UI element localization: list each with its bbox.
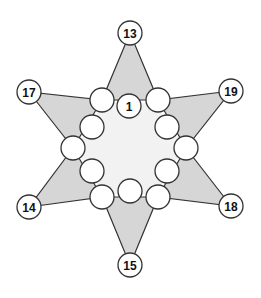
number-circle <box>80 115 104 139</box>
inner-circle-i6 <box>155 159 179 183</box>
inner-circle-i12 <box>80 115 104 139</box>
number-circle <box>146 88 170 112</box>
inner-circle-i9 <box>90 185 114 209</box>
number-circle <box>155 159 179 183</box>
outer-circle-upper-left: 17 <box>17 80 41 104</box>
inner-circle-i2: 1 <box>117 94 141 118</box>
outer-circle-lower-left: 14 <box>17 195 41 219</box>
inner-circle-i1 <box>90 88 114 112</box>
number-circle <box>118 179 142 203</box>
inner-circle-i4 <box>155 115 179 139</box>
circle-number-label: 15 <box>123 259 137 273</box>
circle-number-label: 17 <box>22 86 36 100</box>
circle-number-label: 14 <box>22 201 36 215</box>
circle-number-label: 19 <box>224 85 238 99</box>
inner-circle-i5 <box>174 136 198 160</box>
number-circle <box>90 185 114 209</box>
outer-circle-lower-right: 18 <box>219 194 243 218</box>
inner-circle-i10 <box>80 159 104 183</box>
inner-circle-i7 <box>146 185 170 209</box>
number-circle <box>174 136 198 160</box>
inner-circle-i8 <box>118 179 142 203</box>
number-circle <box>146 185 170 209</box>
outer-circle-bottom: 15 <box>118 253 142 277</box>
outer-circle-top: 13 <box>118 21 142 45</box>
number-circle <box>61 136 85 160</box>
circle-number-label: 18 <box>224 200 238 214</box>
circle-number-label: 1 <box>126 100 133 114</box>
inner-circle-i3 <box>146 88 170 112</box>
circle-number-label: 13 <box>123 27 137 41</box>
outer-circle-upper-right: 19 <box>219 79 243 103</box>
star-diagram-svg: 1131719141815 <box>0 0 261 298</box>
inner-circle-i11 <box>61 136 85 160</box>
number-circle <box>155 115 179 139</box>
number-circle <box>90 88 114 112</box>
star-puzzle-diagram: 1131719141815 <box>0 0 261 298</box>
number-circle <box>80 159 104 183</box>
